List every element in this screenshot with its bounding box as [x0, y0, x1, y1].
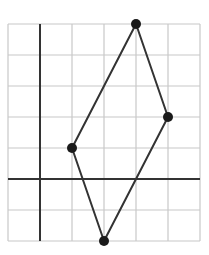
vertex-point-top: [131, 19, 141, 29]
quadrilateral: [72, 24, 168, 241]
grid-lines: [8, 24, 200, 241]
coordinate-grid-figure: [0, 0, 209, 255]
vertex-point-bottom: [99, 236, 109, 246]
vertex-point-left: [67, 143, 77, 153]
quadrilateral-outline: [72, 24, 168, 241]
vertex-point-right: [163, 112, 173, 122]
